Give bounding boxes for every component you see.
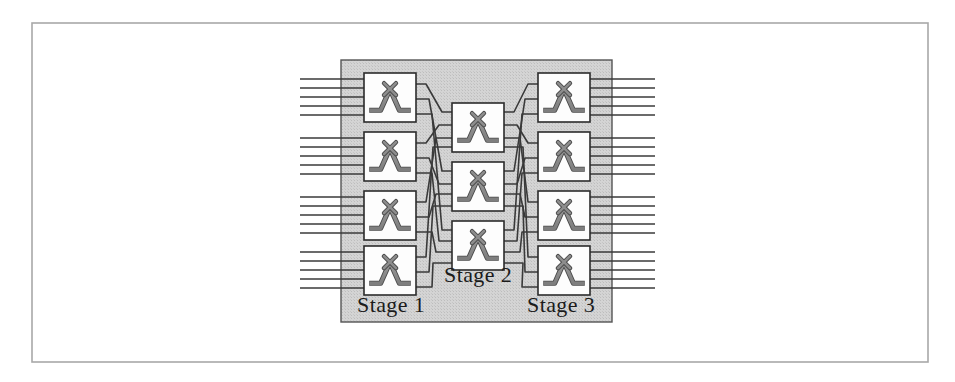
stage1-switch-1: [364, 73, 416, 122]
label-stage-1: Stage 1: [357, 292, 425, 317]
stage2-switch-2: [452, 162, 504, 211]
stage1-switch-2: [364, 132, 416, 181]
stage3-switch-3-box: [538, 191, 590, 240]
stage1-switch-1-box: [364, 73, 416, 122]
stage3-switch-4-box: [538, 246, 590, 295]
stage3-switch-1-box: [538, 73, 590, 122]
figure-container: Stage 1Stage 2Stage 3: [0, 0, 955, 382]
stage1-switch-3: [364, 191, 416, 240]
stage3-switch-1: [538, 73, 590, 122]
label-stage-2: Stage 2: [444, 262, 512, 287]
stage2-switch-1-box: [452, 103, 504, 152]
stage1-switch-3-box: [364, 191, 416, 240]
stage2-switch-1: [452, 103, 504, 152]
stage3-switch-3: [538, 191, 590, 240]
stage2-switch-2-box: [452, 162, 504, 211]
stage3-switch-2-box: [538, 132, 590, 181]
stage1-switch-4: [364, 246, 416, 295]
label-stage-3: Stage 3: [527, 292, 595, 317]
stage1-switch-2-box: [364, 132, 416, 181]
stage1-switch-4-box: [364, 246, 416, 295]
stage2-switches: [452, 103, 504, 270]
stage3-switch-2: [538, 132, 590, 181]
stage3-switch-4: [538, 246, 590, 295]
clos-network-diagram: Stage 1Stage 2Stage 3: [0, 0, 955, 382]
